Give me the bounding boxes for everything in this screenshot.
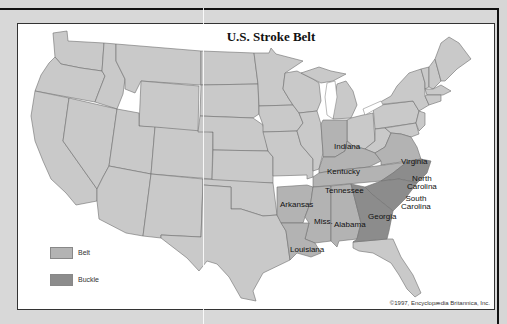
state-indiana — [321, 120, 347, 157]
state-arizona — [97, 166, 151, 236]
fold-line — [203, 8, 204, 324]
state-kansas — [212, 150, 273, 183]
label-kentucky: Kentucky — [327, 168, 360, 176]
legend-label-buckle: Buckle — [78, 276, 99, 283]
label-north-carolina: North Carolina — [407, 175, 437, 191]
label-virginia: Virginia — [401, 158, 428, 166]
us-map — [18, 24, 495, 310]
label-south-carolina-line2: Carolina — [401, 203, 431, 211]
label-tennessee: Tennessee — [325, 187, 364, 195]
label-indiana: Indiana — [334, 143, 360, 151]
map-panel: U.S. Stroke Belt Indiana Kentucky Virgin… — [17, 23, 495, 310]
label-south-carolina: South Carolina — [401, 195, 431, 211]
label-louisiana: Louisiana — [290, 246, 324, 254]
label-georgia: Georgia — [368, 213, 396, 221]
state-north-dakota — [201, 51, 258, 85]
label-mississippi: Miss. — [314, 218, 333, 226]
legend-swatch-buckle — [50, 274, 73, 286]
map-title: U.S. Stroke Belt — [18, 29, 494, 45]
state-south-dakota — [200, 84, 259, 118]
legend-label-belt: Belt — [78, 249, 90, 256]
state-wyoming — [139, 81, 199, 132]
state-new-mexico — [143, 174, 203, 238]
legend-swatch-belt — [50, 247, 73, 259]
label-arkansas: Arkansas — [280, 201, 313, 209]
copyright-notice: ©1997, Encyclopædia Britannica, Inc. — [390, 300, 490, 306]
state-florida — [353, 239, 421, 297]
label-alabama: Alabama — [334, 221, 366, 229]
label-virginia-text: Virginia — [401, 157, 428, 166]
label-north-carolina-line2: Carolina — [407, 183, 437, 191]
